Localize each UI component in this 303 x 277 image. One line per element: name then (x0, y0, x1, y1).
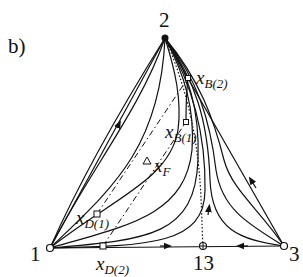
vertex-3-label: 3 (289, 244, 300, 265)
vertex-1-label: 1 (30, 244, 41, 265)
xD1-label: xD(1) (76, 208, 109, 230)
xB1-label: xB(1) (165, 122, 197, 144)
ternary-diagram: b) 2 1 3 13 xB(2) xB(1) xF xD(1) xD(2) (0, 0, 303, 277)
xB2-label: xB(2) (196, 68, 228, 90)
xF-marker (143, 157, 151, 164)
xD2-marker (100, 243, 106, 249)
panel-label: b) (8, 36, 26, 57)
xD2-label: xD(2) (96, 254, 129, 276)
vertex-3-marker (281, 243, 288, 250)
point-13-label: 13 (193, 253, 214, 274)
xB2-marker (186, 76, 191, 81)
vertex-2-label: 2 (159, 10, 170, 31)
vertex-1-marker (47, 245, 54, 252)
vertex-2-marker (162, 35, 169, 42)
diagram-canvas (0, 0, 303, 277)
point-13-marker (200, 243, 207, 250)
xF-label: xF (154, 156, 170, 178)
